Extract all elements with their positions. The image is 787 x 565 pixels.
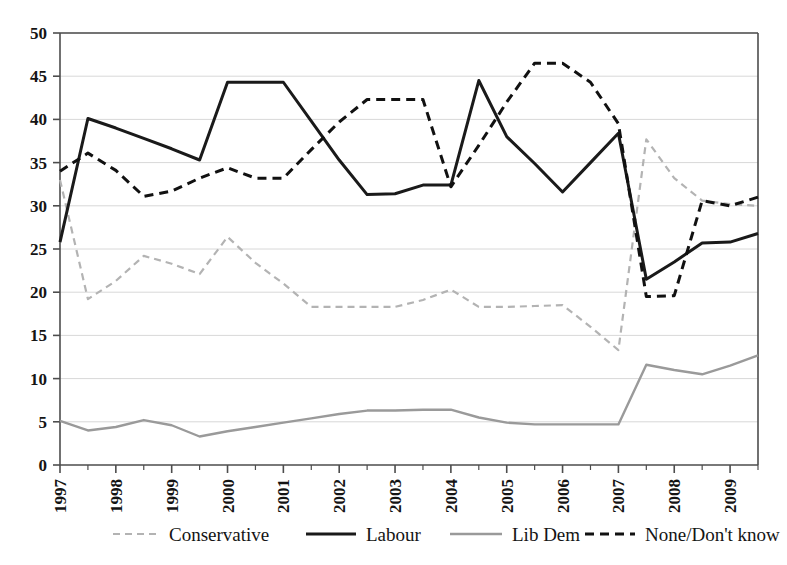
y-tick-label: 15 [30, 326, 47, 345]
y-tick-label: 50 [30, 24, 47, 43]
line-chart: 05101520253035404550 1997199819992000200… [0, 0, 787, 565]
x-tick-label: 2003 [386, 479, 405, 513]
x-tick-label: 2009 [721, 479, 740, 513]
y-tick-label: 45 [30, 67, 47, 86]
legend-label-labour: Labour [366, 524, 422, 545]
x-tick-label: 1997 [51, 479, 70, 514]
x-tick-label: 2002 [330, 479, 349, 513]
x-tick-label: 2005 [498, 479, 517, 513]
legend-label-lib-dem: Lib Dem [512, 524, 580, 545]
y-tick-label: 10 [30, 370, 47, 389]
x-tick-label: 2001 [274, 479, 293, 513]
x-tick-label: 1999 [163, 479, 182, 513]
x-tick-label: 2008 [665, 479, 684, 513]
x-tick-label: 2000 [219, 479, 238, 513]
x-tick-label: 2007 [609, 479, 628, 514]
x-tick-label: 1998 [107, 479, 126, 513]
y-tick-label: 30 [30, 197, 47, 216]
y-tick-label: 25 [30, 240, 47, 259]
y-tick-label: 0 [39, 456, 48, 475]
legend-label-conservative: Conservative [169, 524, 269, 545]
x-tick-label: 2006 [554, 479, 573, 513]
chart-container: 05101520253035404550 1997199819992000200… [0, 0, 787, 565]
x-tick-label: 2004 [442, 479, 461, 514]
y-tick-label: 5 [39, 413, 48, 432]
y-tick-label: 40 [30, 110, 47, 129]
y-tick-label: 20 [30, 283, 47, 302]
y-tick-label: 35 [30, 154, 47, 173]
legend-label-none-don-t-know: None/Don't know [645, 524, 780, 545]
